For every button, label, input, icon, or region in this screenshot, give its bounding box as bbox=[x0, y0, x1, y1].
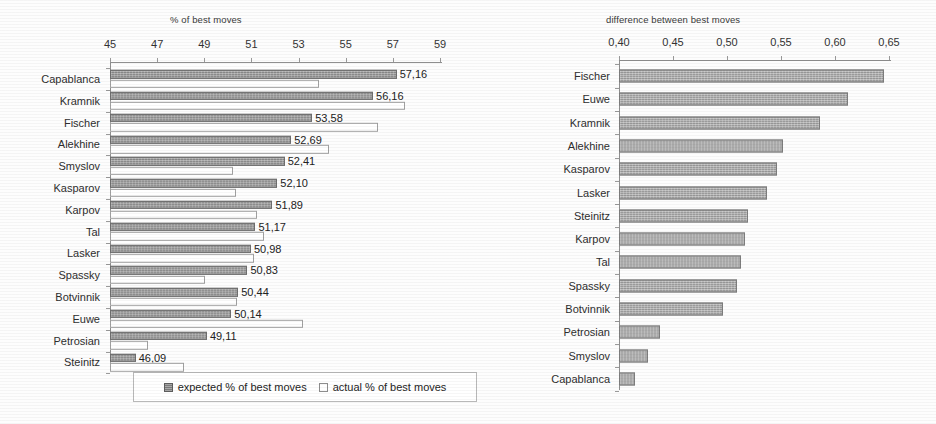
y-tick-mark bbox=[615, 227, 619, 228]
legend-label-expected: expected % of best moves bbox=[178, 381, 307, 393]
category-label: Smyslov bbox=[8, 160, 100, 172]
category-label: Fischer bbox=[8, 117, 100, 129]
chart-title-right: difference between best moves bbox=[606, 14, 740, 25]
bar bbox=[619, 163, 777, 176]
bar bbox=[110, 210, 257, 218]
y-tick-mark bbox=[106, 221, 110, 222]
x-tick-mark bbox=[673, 56, 674, 60]
bar bbox=[110, 157, 285, 165]
category-label: Kasparov bbox=[506, 163, 610, 175]
chart-percent-best-moves: % of best moves 4547495153555759 Capabla… bbox=[0, 0, 500, 424]
bar bbox=[619, 116, 820, 129]
x-tick-label: 57 bbox=[387, 38, 399, 50]
y-tick-mark bbox=[615, 391, 619, 392]
x-tick-mark bbox=[251, 58, 252, 62]
y-tick-mark bbox=[106, 330, 110, 331]
y-tick-mark bbox=[615, 181, 619, 182]
y-tick-mark bbox=[106, 177, 110, 178]
y-tick-mark bbox=[615, 204, 619, 205]
bar bbox=[619, 70, 884, 83]
bar-value-label: 57,16 bbox=[400, 68, 428, 80]
category-label: Spassky bbox=[506, 280, 610, 292]
bar bbox=[110, 288, 238, 296]
bar bbox=[619, 209, 748, 222]
bar-value-label: 50,98 bbox=[254, 243, 282, 255]
x-tick-mark bbox=[346, 58, 347, 62]
category-label: Kasparov bbox=[8, 182, 100, 194]
bar bbox=[110, 135, 291, 143]
bar-value-label: 46,09 bbox=[139, 352, 167, 364]
legend-label-actual: actual % of best moves bbox=[333, 381, 447, 393]
y-tick-mark bbox=[615, 297, 619, 298]
bar bbox=[110, 114, 312, 122]
bar-value-label: 56,16 bbox=[376, 90, 404, 102]
bar bbox=[110, 179, 277, 187]
bar-value-label: 52,41 bbox=[288, 155, 316, 167]
x-tick-label: 0,45 bbox=[662, 36, 683, 48]
y-tick-mark bbox=[106, 68, 110, 69]
y-tick-mark bbox=[615, 158, 619, 159]
x-tick-label: 47 bbox=[151, 38, 163, 50]
bar bbox=[110, 92, 373, 100]
bar bbox=[110, 123, 378, 131]
bar-value-label: 52,10 bbox=[280, 177, 308, 189]
bar bbox=[619, 93, 848, 106]
category-label: Smyslov bbox=[506, 350, 610, 362]
bar-value-label: 51,17 bbox=[258, 221, 286, 233]
x-axis-line bbox=[619, 60, 891, 61]
bar-value-label: 52,69 bbox=[294, 134, 322, 146]
legend-item-expected: expected % of best moves bbox=[164, 381, 307, 393]
x-tick-mark bbox=[299, 58, 300, 62]
bar-value-label: 50,14 bbox=[234, 308, 262, 320]
category-label: Petrosian bbox=[506, 326, 610, 338]
bar bbox=[110, 189, 236, 197]
bar-value-label: 53,58 bbox=[315, 112, 343, 124]
bar bbox=[619, 326, 660, 339]
x-tick-label: 59 bbox=[434, 38, 446, 50]
y-tick-mark bbox=[106, 286, 110, 287]
y-tick-mark bbox=[106, 352, 110, 353]
category-label: Spassky bbox=[8, 269, 100, 281]
legend-swatch-expected-icon bbox=[164, 383, 173, 392]
bar bbox=[110, 101, 405, 109]
bar bbox=[110, 266, 247, 274]
bar bbox=[110, 244, 251, 252]
chart-page: % of best moves 4547495153555759 Capabla… bbox=[0, 0, 936, 424]
y-tick-mark bbox=[615, 344, 619, 345]
y-tick-mark bbox=[615, 64, 619, 65]
y-tick-mark bbox=[615, 274, 619, 275]
category-label: Botvinnik bbox=[8, 291, 100, 303]
y-tick-mark bbox=[615, 251, 619, 252]
category-label: Karpov bbox=[8, 204, 100, 216]
category-label: Lasker bbox=[8, 247, 100, 259]
bar bbox=[619, 349, 648, 362]
category-label: Lasker bbox=[506, 187, 610, 199]
legend-swatch-actual-icon bbox=[319, 383, 328, 392]
y-tick-mark bbox=[615, 88, 619, 89]
y-tick-mark bbox=[106, 90, 110, 91]
category-label: Steinitz bbox=[8, 356, 100, 368]
bar bbox=[110, 145, 329, 153]
x-tick-label: 0,55 bbox=[770, 36, 791, 48]
category-label: Petrosian bbox=[8, 335, 100, 347]
bar bbox=[619, 372, 635, 385]
bar bbox=[110, 353, 136, 361]
category-label: Capablanca bbox=[506, 373, 610, 385]
y-tick-mark bbox=[615, 367, 619, 368]
x-axis-line bbox=[110, 62, 442, 63]
x-tick-mark bbox=[835, 56, 836, 60]
category-label: Euwe bbox=[8, 313, 100, 325]
bar bbox=[110, 167, 233, 175]
x-tick-label: 49 bbox=[198, 38, 210, 50]
y-tick-mark bbox=[106, 243, 110, 244]
x-tick-label: 51 bbox=[245, 38, 257, 50]
x-tick-label: 0,65 bbox=[878, 36, 899, 48]
x-tick-mark bbox=[204, 58, 205, 62]
x-tick-label: 0,60 bbox=[824, 36, 845, 48]
bar bbox=[619, 139, 783, 152]
category-label: Karpov bbox=[506, 233, 610, 245]
category-label: Kramnik bbox=[8, 95, 100, 107]
bar bbox=[110, 80, 319, 88]
y-tick-mark bbox=[106, 264, 110, 265]
x-tick-mark bbox=[440, 58, 441, 62]
